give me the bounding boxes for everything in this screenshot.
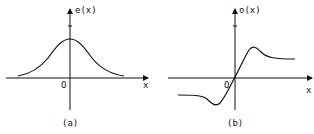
panel-a-origin-label: O — [61, 80, 66, 90]
panel-b — [168, 9, 312, 110]
even-curve — [18, 39, 124, 76]
panel-a-y-label: e(x) — [75, 5, 97, 15]
panel-b-y-label: o(x) — [239, 5, 261, 15]
panel-a-x-label: x — [143, 80, 149, 90]
panel-b-caption: (b) — [227, 118, 243, 128]
panel-b-x-label: x — [306, 85, 312, 95]
figure: e(x) x O (a) o(x) x O (b) — [0, 0, 314, 134]
panel-b-origin-label: O — [224, 80, 229, 90]
panel-a-caption: (a) — [62, 118, 78, 128]
odd-curve — [178, 47, 295, 105]
panel-a — [6, 9, 148, 110]
